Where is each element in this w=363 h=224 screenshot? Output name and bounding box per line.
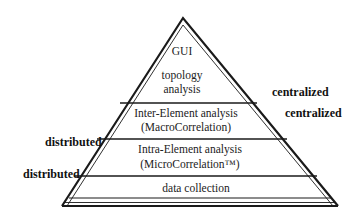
layer-collection-label: data collection: [162, 182, 230, 194]
layer-topology-line1: topology: [162, 69, 203, 82]
layer-gui-label: GUI: [172, 45, 193, 57]
layer-topology-line2: analysis: [163, 83, 201, 96]
layer-inter-line1: Inter-Element analysis: [134, 107, 238, 120]
right-label-centralized-1: centralized: [272, 85, 329, 99]
left-label-distributed-2: distributed: [23, 167, 80, 181]
left-label-distributed-1: distributed: [45, 135, 102, 149]
layer-intra-line1: Intra-Element analysis: [138, 143, 242, 156]
layer-intra-line2: (MicroCorrelation™): [140, 158, 240, 171]
pyramid-diagram: GUI topology analysis Inter-Element anal…: [0, 0, 363, 224]
layer-inter-line2: (MacroCorrelation): [141, 121, 231, 134]
right-label-centralized-2: centralized: [285, 106, 342, 120]
